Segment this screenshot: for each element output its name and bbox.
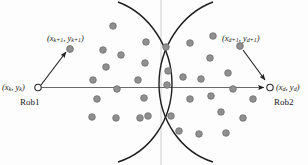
robot1-to-next-arrow: [41, 52, 66, 85]
target-dot: [187, 40, 194, 47]
robot2-next-waypoint-dot[interactable]: [237, 43, 244, 50]
target-dot: [143, 39, 150, 46]
robot1-next-waypoint-dot[interactable]: [67, 46, 74, 53]
target-dot: [103, 64, 110, 71]
label-open: (x: [2, 82, 9, 92]
label-open: (x: [222, 33, 229, 43]
target-dot: [223, 130, 230, 137]
target-dot: [225, 70, 232, 77]
target-dot: [210, 33, 217, 40]
target-dot: [89, 114, 96, 121]
target-dot: [135, 77, 142, 84]
target-dot: [218, 109, 225, 116]
target-dot: [196, 131, 203, 138]
robot1-next-position-label: (xk+1, yk+1): [47, 34, 84, 43]
target-dot: [94, 96, 101, 103]
target-dot: [113, 115, 120, 122]
target-dot: [180, 74, 187, 81]
label-sub1: d+1: [229, 37, 239, 43]
label-sub2: k+1: [71, 37, 81, 43]
label-close: ): [81, 33, 84, 43]
target-dot: [90, 77, 97, 84]
target-dot: [110, 23, 117, 30]
robot2-position-marker[interactable]: [267, 84, 273, 90]
target-dot: [208, 93, 215, 100]
target-dot: [145, 113, 152, 120]
robot2-name-label: Rob2: [274, 98, 294, 107]
label-close: ): [297, 82, 300, 92]
target-dot: [250, 96, 257, 103]
robot2-current-position-label: (xd, yd): [276, 83, 299, 92]
target-dot: [100, 47, 107, 54]
target-dot: [176, 128, 183, 135]
diagram-vector-layer: [0, 0, 308, 165]
robot1-position-marker[interactable]: [35, 84, 41, 90]
target-dot: [163, 44, 170, 51]
label-sub2: d+1: [247, 37, 257, 43]
target-dot: [207, 55, 214, 62]
label-mid: , y: [239, 33, 247, 43]
target-dot: [165, 68, 172, 75]
left-sensing-arc: [118, 2, 172, 162]
label-close: ): [257, 33, 260, 43]
label-sub1: k+1: [54, 37, 64, 43]
robot1-name-label: Rob1: [20, 98, 40, 107]
target-dot: [187, 96, 194, 103]
label-open: (x: [276, 82, 283, 92]
target-dot: [240, 115, 247, 122]
target-dot: [141, 95, 148, 102]
target-dot: [230, 86, 237, 93]
label-open: (x: [47, 33, 54, 43]
target-dot: [198, 76, 205, 83]
target-dot: [137, 115, 144, 122]
movement-arrows: [41, 50, 265, 85]
label-mid: , y: [286, 82, 294, 92]
next-to-robot2-arrow: [243, 50, 265, 80]
target-dot: [168, 113, 175, 120]
target-dot: [142, 60, 149, 67]
robot2-next-position-label: (xd+1, yd+1): [222, 34, 260, 43]
label-close: ): [22, 82, 25, 92]
diagram-canvas: (xk, yk) Rob1 (xk+1, yk+1) (xd+1, yd+1) …: [0, 0, 308, 165]
target-dot: [164, 82, 171, 89]
robot1-current-position-label: (xk, yk): [2, 83, 25, 92]
target-dot: [118, 52, 125, 59]
target-dot: [114, 86, 121, 93]
